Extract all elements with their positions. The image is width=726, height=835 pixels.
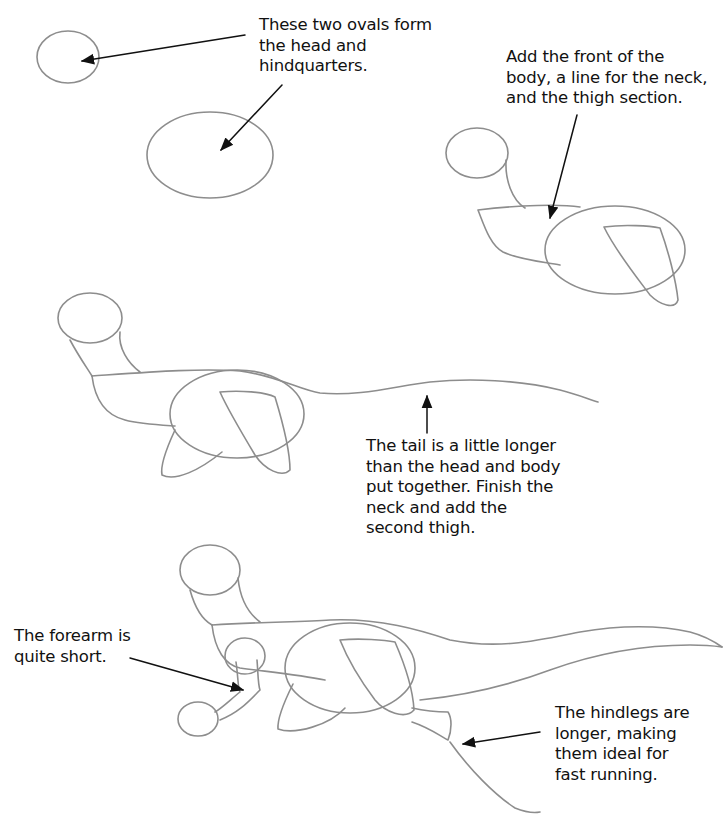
thigh: [220, 391, 290, 473]
head-oval: [58, 293, 122, 343]
step1-sketch: [37, 31, 282, 198]
head-oval: [180, 545, 240, 595]
caption-line: second thigh.: [366, 518, 560, 539]
hindquarters-oval: [147, 112, 273, 198]
caption-step1: These two ovals form the head and hindqu…: [259, 15, 432, 77]
caption-hindlegs: The hindlegs are longer, making them ide…: [555, 703, 689, 785]
caption-line: them ideal for: [555, 744, 689, 765]
hand-circle: [178, 702, 218, 736]
head-oval: [37, 31, 99, 83]
caption-line: and the thigh section.: [506, 88, 707, 109]
head-oval: [446, 128, 508, 178]
caption-line: body, a line for the neck,: [506, 68, 707, 89]
arrow-to-head: [82, 35, 245, 61]
caption-step3: The tail is a little longer than the hea…: [366, 436, 560, 539]
caption-line: Add the front of the: [506, 47, 707, 68]
arrow-to-hindquarters: [221, 85, 282, 150]
second-thigh: [162, 430, 222, 477]
caption-line: hindquarters.: [259, 56, 432, 77]
caption-line: fast running.: [555, 765, 689, 786]
caption-line: neck and add the: [366, 498, 560, 519]
neck: [190, 578, 260, 625]
foot-line: [450, 742, 540, 812]
hindquarters-oval: [545, 206, 685, 294]
tail-lower: [420, 645, 722, 700]
neck: [70, 332, 140, 376]
back-line: [212, 620, 722, 647]
caption-step2: Add the front of the body, a line for th…: [506, 47, 707, 109]
caption-line: The hindlegs are: [555, 703, 689, 724]
neck-line: [506, 160, 525, 208]
step2-sketch: [446, 115, 685, 305]
lower-leg: [412, 708, 451, 740]
caption-line: The forearm is: [14, 626, 131, 647]
hindquarters-oval: [285, 623, 415, 713]
second-thigh: [278, 684, 345, 731]
caption-line: quite short.: [14, 647, 131, 668]
hindquarters-oval: [170, 370, 304, 458]
thigh: [340, 639, 414, 714]
caption-line: These two ovals form: [259, 15, 432, 36]
caption-line: put together. Finish the: [366, 477, 560, 498]
caption-forearm: The forearm is quite short.: [14, 626, 131, 667]
caption-line: longer, making: [555, 724, 689, 745]
caption-line: the head and: [259, 36, 432, 57]
caption-line: than the head and body: [366, 457, 560, 478]
arrow-to-body: [550, 115, 577, 218]
front-body: [478, 205, 580, 265]
caption-line: The tail is a little longer: [366, 436, 560, 457]
chest: [92, 376, 175, 426]
back-line: [92, 370, 598, 402]
arrow-to-hindlegs: [463, 732, 540, 744]
